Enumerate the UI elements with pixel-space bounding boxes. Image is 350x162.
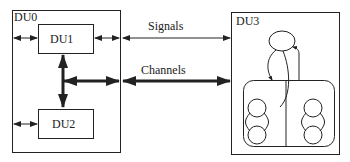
du3-right-loop-right [320,113,325,131]
du3-left-loop-right [264,113,269,131]
channels-label: Channels [141,64,186,76]
du3-right-state-top [304,99,322,117]
du3-left-state-top [248,99,266,117]
signals-label: Signals [148,20,183,32]
du3-transition-up [293,47,299,80]
du3-label: DU3 [236,15,259,27]
du3-left-loop-left [246,113,251,131]
du3-transition-down [268,50,276,80]
du3-left-state-bottom [248,126,266,144]
du1-label: DU1 [50,33,73,45]
du3-inner-curve [280,51,289,107]
du3-right-state-bottom [304,126,322,144]
du3-top-state [269,31,295,51]
du3-right-loop-left [302,113,307,131]
du2-label: DU2 [52,118,75,130]
du0-label: DU0 [14,11,37,23]
